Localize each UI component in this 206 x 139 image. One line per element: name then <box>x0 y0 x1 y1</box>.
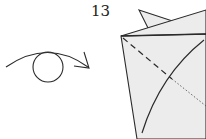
origami-diagram <box>0 0 206 139</box>
right-flap <box>121 10 206 36</box>
circle-icon <box>33 52 63 82</box>
curved-arrow-icon <box>6 53 88 68</box>
turn-over-icon <box>6 52 89 82</box>
paper-top-flaps <box>121 10 206 36</box>
